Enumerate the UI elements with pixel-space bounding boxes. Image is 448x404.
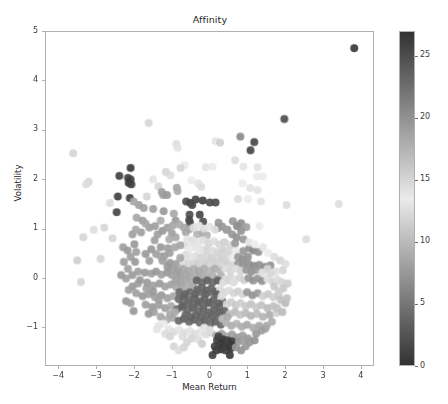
- y-tick-mark: [42, 229, 45, 230]
- y-tick-label: 5: [9, 26, 38, 35]
- x-tick-label: 0: [195, 371, 225, 380]
- x-tick-mark: [247, 366, 248, 369]
- matplotlib-figure: Affinity Mean Return Volatility −1012345…: [0, 0, 448, 404]
- x-tick-label: −1: [157, 371, 187, 380]
- colorbar-tick-label: 15: [420, 174, 446, 183]
- colorbar-gradient: [400, 32, 414, 365]
- colorbar-tick-mark: [415, 366, 418, 367]
- y-tick-mark: [42, 130, 45, 131]
- chart-title: Affinity: [45, 14, 375, 25]
- x-tick-mark: [96, 366, 97, 369]
- x-tick-label: −2: [119, 371, 149, 380]
- colorbar: [399, 31, 415, 366]
- y-tick-label: 2: [9, 174, 38, 183]
- colorbar-tick-mark: [415, 242, 418, 243]
- colorbar-tick-mark: [415, 180, 418, 181]
- colorbar-tick-label: 25: [420, 50, 446, 59]
- y-tick-mark: [42, 80, 45, 81]
- x-tick-mark: [361, 366, 362, 369]
- y-tick-label: −1: [9, 322, 38, 331]
- y-tick-mark: [42, 278, 45, 279]
- x-tick-label: 1: [232, 371, 262, 380]
- y-tick-label: 1: [9, 223, 38, 232]
- colorbar-tick-label: 5: [420, 298, 446, 307]
- x-tick-mark: [134, 366, 135, 369]
- x-tick-mark: [58, 366, 59, 369]
- x-tick-label: 3: [308, 371, 338, 380]
- colorbar-tick-mark: [415, 56, 418, 57]
- x-axis-label: Mean Return: [45, 382, 374, 392]
- x-tick-mark: [323, 366, 324, 369]
- x-tick-label: −4: [43, 371, 73, 380]
- y-tick-mark: [42, 31, 45, 32]
- y-tick-mark: [42, 327, 45, 328]
- y-tick-label: 4: [9, 75, 38, 84]
- x-tick-label: −3: [81, 371, 111, 380]
- x-tick-mark: [285, 366, 286, 369]
- x-tick-mark: [172, 366, 173, 369]
- x-tick-label: 4: [346, 371, 376, 380]
- y-axis-label: Volatility: [13, 143, 23, 223]
- y-tick-label: 3: [9, 124, 38, 133]
- colorbar-tick-label: 20: [420, 112, 446, 121]
- y-tick-label: 0: [9, 273, 38, 282]
- colorbar-tick-label: 10: [420, 236, 446, 245]
- scatter-plot-axes: [45, 31, 374, 366]
- x-tick-mark: [210, 366, 211, 369]
- y-tick-mark: [42, 179, 45, 180]
- scatter-points-canvas: [46, 32, 373, 365]
- x-tick-label: 2: [270, 371, 300, 380]
- colorbar-tick-mark: [415, 118, 418, 119]
- colorbar-tick-mark: [415, 304, 418, 305]
- colorbar-tick-label: 0: [420, 361, 446, 370]
